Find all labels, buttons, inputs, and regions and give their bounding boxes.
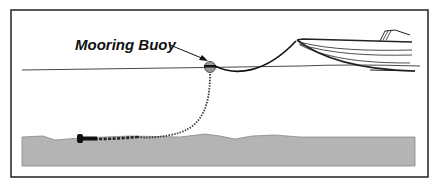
mooring-buoy-label: Mooring Buoy [75, 36, 176, 53]
mooring-buoy-icon [204, 62, 216, 73]
mooring-chain [138, 74, 210, 138]
boat-icon [297, 30, 415, 71]
mooring-diagram [0, 0, 441, 186]
